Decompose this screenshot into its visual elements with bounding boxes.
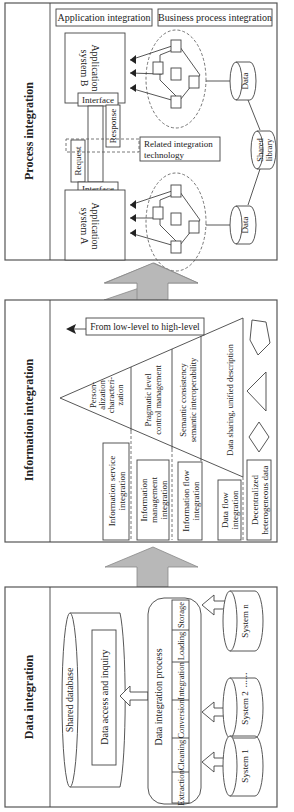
pyramid-level-semantic: Semantic consistencysemantic interoperab…	[178, 357, 198, 442]
application-integration-label: Application integration	[57, 12, 150, 23]
data-access-inquiry-label: Data access and inquiry	[99, 649, 110, 744]
direction-label: From low-level to high-level	[90, 322, 200, 332]
shared-database-cylinder: Shared database Data access and inquiry	[62, 613, 125, 787]
data-bottom-label: Data	[240, 217, 250, 234]
data-integration-title: Data integration	[22, 655, 36, 740]
upward-arrow-information-to-process-shaft	[105, 263, 198, 300]
process-steps-column: Storage Loading Integration Conversion C…	[172, 600, 189, 806]
shared-database-label: Shared database	[64, 667, 75, 732]
request-label: Request	[73, 146, 83, 175]
process-integration-title: Process integration	[22, 82, 36, 180]
response-label: Response	[108, 109, 118, 144]
process-integration-panel: Process integration Application integrat…	[5, 3, 277, 271]
pyramid-level-data-sharing: Data sharing, unified description	[225, 344, 235, 456]
business-process-integration-label: Business process integration	[158, 12, 272, 23]
information-management-integration-label: Informationmanagementintegration	[139, 477, 169, 523]
data-integration-panel: Data integration Shared database Data ac…	[5, 587, 277, 807]
system-1-label: System 1	[240, 749, 250, 782]
decentralized-heterogeneous-data-label: Decentralizedheterogeneous data	[250, 465, 270, 534]
information-integration-panel: Information integration From low-level t…	[5, 300, 277, 542]
step-integration: Integration	[176, 662, 186, 700]
step-extraction: Extraction	[176, 770, 186, 806]
data-integration-process-label: Data integration process	[153, 648, 164, 745]
upward-arrow-data-to-information	[105, 547, 198, 587]
data-cylinder-top: Data	[230, 62, 256, 100]
step-storage: Storage	[176, 602, 186, 628]
systems-ellipsis: ......	[238, 673, 249, 688]
data-top-label: Data	[240, 73, 250, 90]
information-integration-title: Information integration	[22, 359, 36, 482]
pyramid-level-pragmatic: Pragmatic levelcontrol management	[143, 365, 163, 435]
application-system-a-label: Applicationsystem A	[79, 202, 101, 249]
step-loading: Loading	[176, 631, 186, 660]
interface-top-label: Interface	[82, 95, 114, 105]
interface-connector	[88, 106, 103, 182]
step-conversion: Conversion	[176, 699, 186, 739]
integration-architecture-diagram: Process integration Application integrat…	[0, 0, 294, 812]
application-system-b-label: Applicationsystem B	[79, 44, 101, 91]
system-2-label: System 2	[240, 691, 250, 724]
data-flow-integration-label: Data flowintegration	[220, 490, 240, 529]
system-n-label: System n	[240, 604, 250, 638]
shared-library-label: Sharedlibrary	[255, 137, 274, 161]
step-cleaning: Cleaning	[176, 739, 186, 770]
